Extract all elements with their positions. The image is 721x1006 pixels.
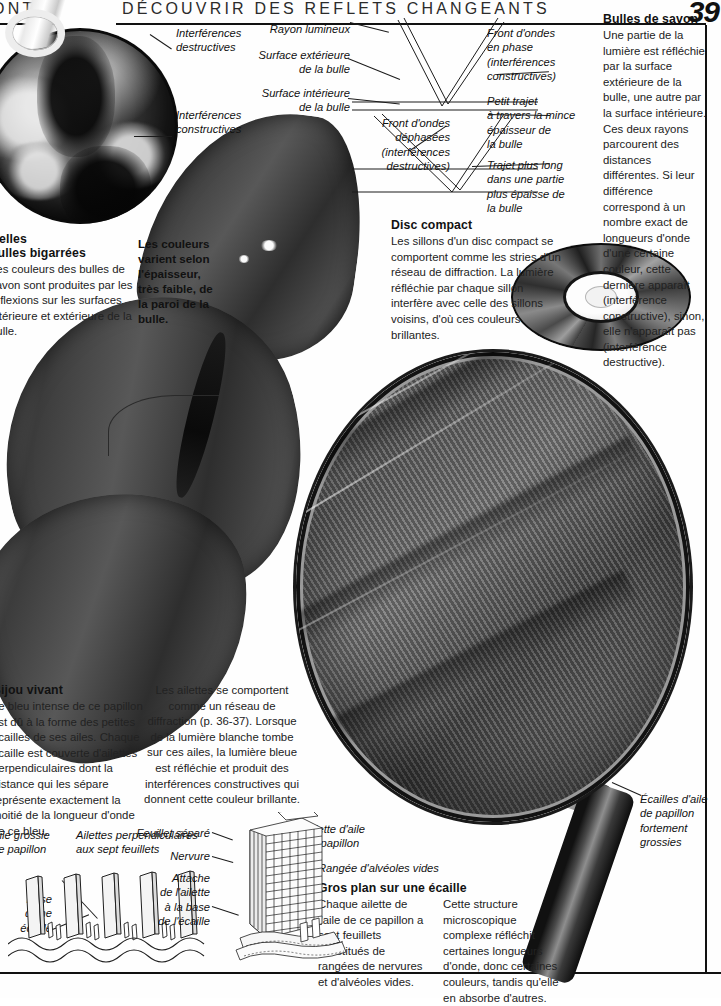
- panel-body: Les sillons d'un disc compact se comport…: [391, 234, 567, 343]
- panel-disc-compact: Disc compact Les sillons d'un disc compa…: [391, 218, 567, 343]
- panel-bulles-de-savon: Bulles de savon Une partie de la lumière…: [603, 12, 709, 371]
- butterfly-wing-spot: [260, 240, 278, 251]
- caption-epaisseur-paroi: Les couleurs varient selon l'épaisseur, …: [138, 236, 222, 326]
- callout-front-ondes-en-phase: Front d'ondesen phase(interférencesconst…: [487, 26, 579, 84]
- panel-heading: Bulles de savon: [603, 12, 709, 26]
- leader-line: [134, 136, 172, 137]
- callout-attache-ailette: Attachede l'ailetteà la basede l'écaille: [134, 871, 210, 929]
- panel-heading: Bijou vivant: [0, 683, 144, 697]
- callout-surface-exterieure: Surface extérieurede la bulle: [236, 48, 350, 77]
- ailette-structure-drawing: [226, 812, 356, 967]
- callout-nervure: Nervure: [148, 849, 210, 863]
- callout-petit-trajet: Petit trajetà travers la minceépaisseur …: [487, 94, 579, 152]
- magnifier-lens: [296, 352, 690, 822]
- panel-ailettes-reseau: Les ailettes se comportent comme un rése…: [143, 683, 301, 808]
- panel-body: Une partie de la lumière est réfléchie p…: [603, 28, 709, 371]
- panel-body-column-2: Cette structure microscopique complexe r…: [443, 897, 566, 1006]
- panel-heading-line1: Belles: [0, 232, 142, 246]
- butterfly-wing-spot: [238, 255, 250, 263]
- panel-belles-bulles-bigarrees: Belles bulles bigarrées Les couleurs des…: [0, 232, 142, 340]
- callout-aile-grossie: Aile grossiede papillon: [0, 828, 82, 857]
- callout-surface-interieure: Surface intérieurede la bulle: [236, 86, 350, 115]
- panel-body: Le bleu intense de ce papillon est dû à …: [0, 699, 144, 839]
- callout-front-ondes-dephasees: Front d'ondesdéphasées(interférencesdest…: [340, 116, 450, 174]
- callout-rayon-lumineux: Rayon lumineux: [240, 22, 350, 36]
- leader-line: [150, 34, 172, 49]
- callout-ecailles-aile-grossies: Écailles d'ailede papillonfortementgross…: [640, 792, 718, 850]
- panel-body: Les ailettes se comportent comme un rése…: [143, 683, 301, 808]
- panel-heading: Disc compact: [391, 218, 567, 232]
- panel-heading-line2: bulles bigarrées: [0, 246, 142, 260]
- panel-bijou-vivant: Bijou vivant Le bleu intense de ce papil…: [0, 683, 144, 839]
- callout-trajet-plus-long: Trajet plus longdans une partieplus épai…: [487, 158, 579, 216]
- callout-feuillet-separe: Feuillet séparé: [108, 826, 210, 840]
- panel-body: Les couleurs des bulles de savon sont pr…: [0, 262, 142, 340]
